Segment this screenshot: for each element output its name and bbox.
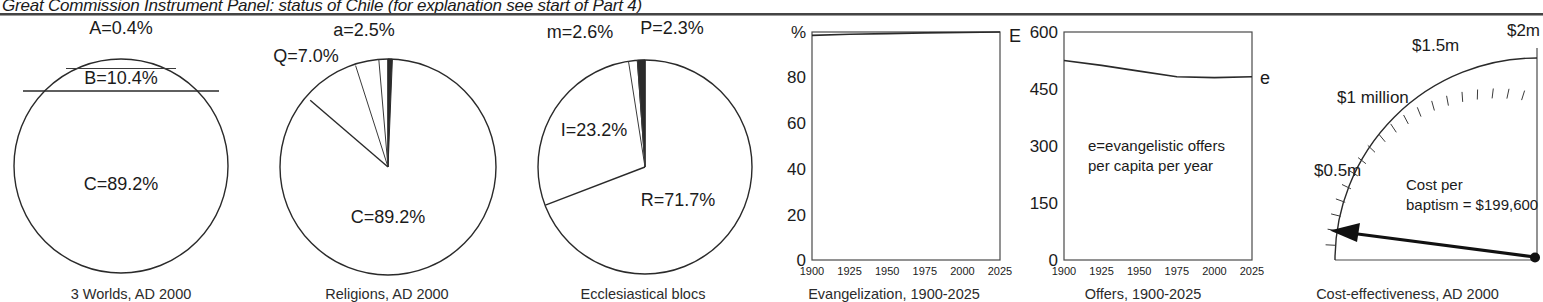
pie-label-m: m=2.6%: [547, 22, 614, 42]
offers-note-line2: per capita per year: [1088, 157, 1213, 174]
header-divider: [0, 13, 1543, 16]
x-tick-2025: 2025: [988, 265, 1012, 277]
panel-3-worlds: A=0.4% B=10.4% C=89.2% 3 Worlds, AD 2000: [0, 18, 262, 302]
pie-chart-blocs: m=2.6% P=2.3% I=23.2% R=71.7%: [512, 18, 774, 280]
line-chart-offers: e 600 450 300 150 0 e=evangelistic offer…: [1012, 18, 1274, 280]
x-tick-1950: 1950: [875, 265, 899, 277]
panel-caption: Offers, 1900-2025: [1012, 286, 1274, 302]
x-tick-1925: 1925: [837, 265, 861, 277]
pie-label-c: C=89.2%: [84, 174, 159, 194]
gauge-pivot: [1530, 253, 1540, 263]
panel-evangelization: E % 80 60 40 20 0 1900 1925 1950 1975 20…: [770, 18, 1018, 302]
x-tick-2000: 2000: [1202, 265, 1226, 277]
gauge-cost-effectiveness: $0.5m $1 million $1.5m $2m Cost per bapt…: [1272, 18, 1543, 280]
panel-cost-effectiveness: $0.5m $1 million $1.5m $2m Cost per bapt…: [1272, 18, 1543, 302]
y-tick-60: 60: [787, 114, 806, 133]
slice-edge-q: [356, 66, 388, 167]
x-tick-1950: 1950: [1127, 265, 1151, 277]
pie-label-c: C=89.2%: [351, 207, 426, 227]
slice-edge-a: [379, 59, 388, 167]
instrument-panel-page: Great Commission Instrument Panel: statu…: [0, 0, 1543, 302]
pie-label-q: Q=7.0%: [273, 46, 339, 66]
panel-caption: Cost-effectiveness, AD 2000: [1272, 286, 1543, 302]
pie-label-b: B=10.4%: [84, 68, 158, 88]
y-tick-40: 40: [787, 160, 806, 179]
gauge-label-0-5m: $0.5m: [1314, 161, 1361, 180]
panel-ecclesiastical-blocs: m=2.6% P=2.3% I=23.2% R=71.7% Ecclesiast…: [512, 18, 774, 302]
data-line-e: [1064, 61, 1252, 78]
panel-caption: 3 Worlds, AD 2000: [0, 286, 262, 302]
cost-note-line1: Cost per: [1406, 176, 1463, 193]
panel-caption: Religions, AD 2000: [258, 286, 516, 302]
y-tick-percent: %: [791, 23, 806, 42]
x-tick-2000: 2000: [950, 265, 974, 277]
series-label-e: e: [1260, 68, 1270, 88]
y-tick-20: 20: [787, 206, 806, 225]
plot-frame: [812, 32, 1000, 260]
x-tick-1900: 1900: [1052, 265, 1076, 277]
pie-label-r: R=71.7%: [641, 190, 716, 210]
slice-edge-c: [310, 100, 388, 167]
gauge-label-2m: $2m: [1507, 21, 1540, 40]
gauge-label-1-5m: $1.5m: [1412, 36, 1459, 55]
pie-label-a: a=2.5%: [333, 20, 395, 40]
pie-label-p: P=2.3%: [640, 18, 704, 38]
pie-chart-3-worlds: A=0.4% B=10.4% C=89.2%: [0, 18, 262, 280]
y-tick-600: 600: [1030, 23, 1058, 42]
x-tick-1925: 1925: [1089, 265, 1113, 277]
x-tick-1975: 1975: [913, 265, 937, 277]
pie-label-i: I=23.2%: [561, 120, 628, 140]
cost-note-line2: baptism = $199,600: [1406, 196, 1538, 213]
panel-caption: Evangelization, 1900-2025: [770, 286, 1018, 302]
panel-religions: a=2.5% Q=7.0% C=89.2% Religions, AD 2000: [258, 18, 516, 302]
pie-label-a: A=0.4%: [89, 18, 153, 38]
panel-offers: e 600 450 300 150 0 e=evangelistic offer…: [1012, 18, 1274, 302]
x-tick-2025: 2025: [1240, 265, 1264, 277]
line-chart-evangelization: E % 80 60 40 20 0 1900 1925 1950 1975 20…: [770, 18, 1018, 280]
y-tick-300: 300: [1030, 137, 1058, 156]
pie-chart-religions: a=2.5% Q=7.0% C=89.2%: [258, 18, 516, 280]
gauge-needle: [1350, 233, 1535, 257]
x-tick-1900: 1900: [800, 265, 824, 277]
slice-edge-i: [545, 167, 645, 205]
y-tick-450: 450: [1030, 80, 1058, 99]
gauge-needle-arrowhead: [1330, 223, 1360, 242]
offers-note-line1: e=evangelistic offers: [1088, 137, 1225, 154]
panel-caption: Ecclesiastical blocs: [512, 286, 774, 302]
gauge-label-1m: $1 million: [1337, 88, 1409, 107]
y-tick-80: 80: [787, 68, 806, 87]
y-tick-150: 150: [1030, 194, 1058, 213]
x-tick-1975: 1975: [1165, 265, 1189, 277]
